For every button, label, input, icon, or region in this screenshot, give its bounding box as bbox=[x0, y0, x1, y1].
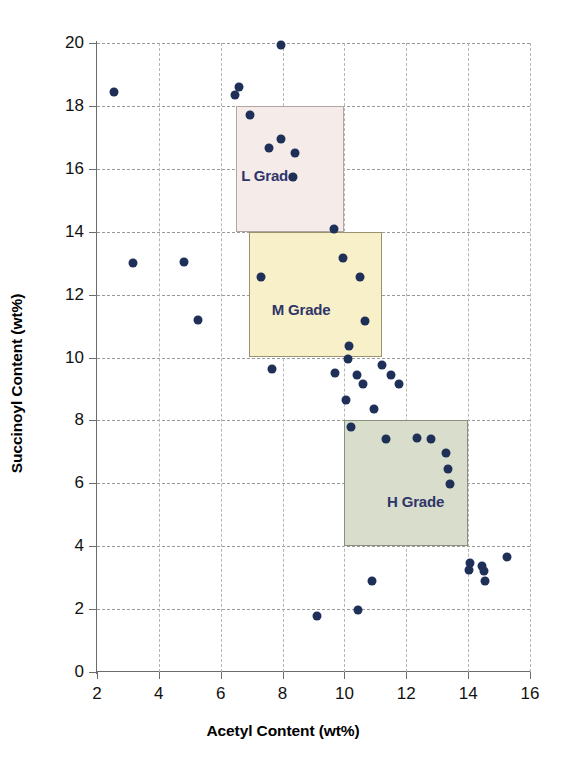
data-point bbox=[290, 149, 299, 158]
x-tick-label: 16 bbox=[510, 684, 550, 704]
y-tick-label: 4 bbox=[42, 536, 84, 556]
gridline-vertical bbox=[159, 43, 160, 672]
y-tick-label: 14 bbox=[42, 222, 84, 242]
data-point bbox=[360, 317, 369, 326]
y-tick-label: 18 bbox=[42, 96, 84, 116]
data-point bbox=[502, 553, 511, 562]
data-point bbox=[355, 273, 364, 282]
gridline-vertical bbox=[530, 43, 531, 672]
y-tick-label: 16 bbox=[42, 159, 84, 179]
data-point bbox=[193, 315, 202, 324]
data-point bbox=[394, 380, 403, 389]
x-tick-mark bbox=[221, 671, 222, 679]
y-tick-label: 8 bbox=[42, 410, 84, 430]
data-point bbox=[338, 254, 347, 263]
y-tick-label: 0 bbox=[42, 662, 84, 682]
data-point bbox=[481, 576, 490, 585]
x-tick-mark bbox=[97, 671, 98, 679]
gridline-vertical bbox=[406, 43, 407, 672]
plot-area: L GradeM GradeH Grade bbox=[97, 43, 530, 672]
grade-band-label: L Grade bbox=[241, 167, 296, 184]
data-point bbox=[377, 361, 386, 370]
data-point bbox=[264, 144, 273, 153]
data-point bbox=[479, 567, 488, 576]
x-tick-label: 4 bbox=[139, 684, 179, 704]
data-point bbox=[331, 369, 340, 378]
x-tick-mark bbox=[159, 671, 160, 679]
x-tick-label: 2 bbox=[77, 684, 117, 704]
data-point bbox=[427, 435, 436, 444]
data-point bbox=[246, 111, 255, 120]
data-point bbox=[346, 422, 355, 431]
x-tick-label: 14 bbox=[448, 684, 488, 704]
data-point bbox=[110, 87, 119, 96]
data-point bbox=[179, 257, 188, 266]
x-tick-label: 10 bbox=[324, 684, 364, 704]
x-tick-mark bbox=[344, 671, 345, 679]
data-point bbox=[267, 364, 276, 373]
x-tick-mark bbox=[283, 671, 284, 679]
x-tick-label: 12 bbox=[386, 684, 426, 704]
gridline-vertical bbox=[468, 43, 469, 672]
x-tick-label: 6 bbox=[201, 684, 241, 704]
scatter-chart: Succinoyl Content (wt%) Acetyl Content (… bbox=[0, 0, 566, 767]
data-point bbox=[354, 606, 363, 615]
data-point bbox=[256, 273, 265, 282]
data-point bbox=[343, 355, 352, 364]
data-point bbox=[230, 90, 239, 99]
data-point bbox=[386, 370, 395, 379]
gridline-horizontal bbox=[97, 609, 530, 610]
data-point bbox=[368, 577, 377, 586]
data-point bbox=[413, 433, 422, 442]
y-tick-label: 6 bbox=[42, 473, 84, 493]
x-tick-label: 8 bbox=[263, 684, 303, 704]
gridline-horizontal bbox=[97, 358, 530, 359]
gridline-horizontal bbox=[97, 546, 530, 547]
data-point bbox=[289, 172, 298, 181]
x-axis-title: Acetyl Content (wt%) bbox=[0, 722, 566, 740]
x-tick-mark bbox=[406, 671, 407, 679]
data-point bbox=[464, 565, 473, 574]
data-point bbox=[329, 224, 338, 233]
data-point bbox=[369, 405, 378, 414]
y-tick-label: 12 bbox=[42, 285, 84, 305]
gridline-horizontal bbox=[97, 43, 530, 44]
grade-band-label: M Grade bbox=[272, 300, 331, 317]
data-point bbox=[382, 435, 391, 444]
data-point bbox=[445, 479, 454, 488]
data-point bbox=[312, 612, 321, 621]
y-tick-label: 10 bbox=[42, 348, 84, 368]
grade-band-m bbox=[249, 232, 382, 358]
gridline-vertical bbox=[221, 43, 222, 672]
data-point bbox=[444, 465, 453, 474]
data-point bbox=[128, 259, 137, 268]
data-point bbox=[277, 40, 286, 49]
data-point bbox=[235, 83, 244, 92]
grade-band-label: H Grade bbox=[387, 492, 444, 509]
y-axis-title: Succinoyl Content (wt%) bbox=[0, 0, 34, 767]
data-point bbox=[345, 342, 354, 351]
data-point bbox=[358, 380, 367, 389]
data-point bbox=[352, 370, 361, 379]
data-point bbox=[442, 449, 451, 458]
y-tick-label: 20 bbox=[42, 33, 84, 53]
x-tick-mark bbox=[530, 671, 531, 679]
data-point bbox=[341, 395, 350, 404]
y-tick-label: 2 bbox=[42, 599, 84, 619]
x-tick-mark bbox=[468, 671, 469, 679]
data-point bbox=[277, 134, 286, 143]
